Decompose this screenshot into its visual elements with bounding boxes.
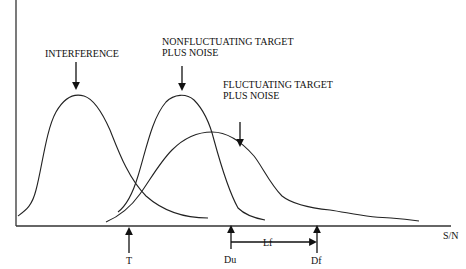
- fluctuating-label-line2: PLUS NOISE: [223, 91, 279, 101]
- nonfluctuating-target-curve: [118, 95, 265, 220]
- interference-label: INTERFERENCE: [45, 49, 119, 59]
- du-label: Du: [224, 255, 236, 265]
- loss-label: Lf: [263, 238, 272, 248]
- interference-curve: [18, 95, 208, 218]
- fluctuating-label-line1: FLUCTUATING TARGET: [223, 80, 333, 90]
- nonfluctuating-label-line1: NONFLUCTUATING TARGET: [162, 37, 294, 47]
- x-axis-label: S/N: [443, 231, 459, 241]
- threshold-label: T: [126, 256, 132, 266]
- probability-density-diagram: INTERFERENCE NONFLUCTUATING TARGET PLUS …: [0, 0, 466, 269]
- df-label: Df: [311, 256, 322, 266]
- nonfluctuating-label-line2: PLUS NOISE: [162, 48, 218, 58]
- fluctuating-target-curve: [106, 132, 419, 222]
